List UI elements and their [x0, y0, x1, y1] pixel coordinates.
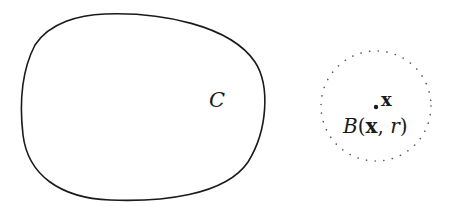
- set-c-boundary: [21, 14, 264, 201]
- ball-label-name: B: [342, 114, 358, 138]
- diagram-svg: C x B(x, r): [0, 0, 455, 207]
- point-x-label: x: [381, 89, 392, 110]
- ball-label-open-paren: (: [358, 114, 366, 138]
- ball-label: B(x, r): [342, 114, 408, 138]
- ball-label-close-paren: ): [400, 114, 408, 138]
- center-point-dot: [374, 105, 378, 109]
- set-c-label: C: [209, 88, 225, 112]
- diagram-canvas: C x B(x, r): [0, 0, 455, 207]
- ball-label-separator: ,: [377, 114, 390, 138]
